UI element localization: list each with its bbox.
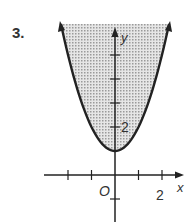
x-tick-label: 2 xyxy=(156,187,164,203)
y-tick-label: 2 xyxy=(121,119,129,135)
x-axis-arrow-icon xyxy=(175,172,184,179)
parabola-graph: yxO22 xyxy=(0,0,193,222)
origin-label: O xyxy=(99,183,110,199)
x-axis-label: x xyxy=(176,180,184,195)
